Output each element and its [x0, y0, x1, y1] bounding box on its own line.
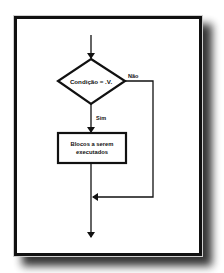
process-box: [58, 133, 126, 163]
process-label-line1: Blocos a serem: [71, 141, 114, 147]
edge-label-nao: Não: [128, 73, 139, 79]
process-label-line2: executados: [76, 149, 108, 155]
flowchart: Condição = .V. Não Sim Blocos a serem ex…: [0, 0, 224, 273]
decision-label: Condição = .V.: [70, 78, 113, 85]
edge-label-sim: Sim: [96, 115, 106, 121]
